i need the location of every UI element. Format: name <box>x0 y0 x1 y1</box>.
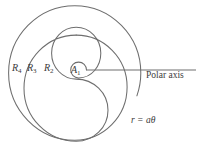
region-label-r4-subscript: 4 <box>18 67 22 75</box>
spiral-curve <box>24 27 108 141</box>
region-label-r3: R3 <box>27 63 37 75</box>
region-label-r4: R4 <box>12 63 22 75</box>
equation-variable-theta: θ <box>151 115 156 125</box>
area-label-a1-subscript: 1 <box>77 69 81 77</box>
equation-label: r = aθ <box>131 116 155 126</box>
area-label-a1: A1 <box>71 65 81 77</box>
region-label-r3-subscript: 3 <box>33 67 37 75</box>
spiral-figure: R4 R3 R2 A1 Polar axis r = aθ <box>0 0 197 147</box>
polar-axis-label: Polar axis <box>146 71 184 81</box>
region-label-r2-subscript: 2 <box>50 67 54 75</box>
equation-equals-sign: = <box>135 115 146 125</box>
region-label-r2: R2 <box>44 63 54 75</box>
